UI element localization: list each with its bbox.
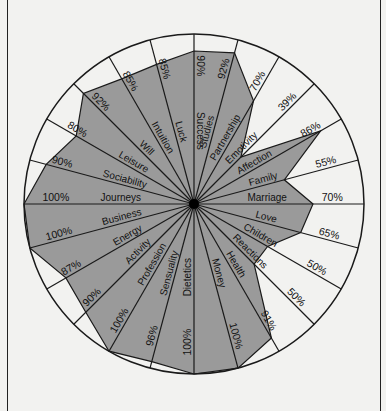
value-label: 65% bbox=[318, 225, 341, 242]
category-label: Dietetics bbox=[182, 258, 193, 296]
value-label: 55% bbox=[314, 153, 337, 170]
value-label: 70% bbox=[322, 191, 343, 203]
value-label: 39% bbox=[275, 90, 298, 113]
value-label: 100% bbox=[181, 329, 193, 356]
category-label: Marriage bbox=[247, 192, 287, 203]
category-label: Journeys bbox=[101, 192, 142, 203]
center-hub bbox=[189, 199, 199, 209]
value-label: 90% bbox=[195, 55, 207, 76]
value-label: 100% bbox=[42, 191, 69, 203]
value-label: 50% bbox=[305, 257, 329, 278]
value-label: 70% bbox=[247, 69, 268, 93]
value-label: 50% bbox=[285, 285, 308, 308]
